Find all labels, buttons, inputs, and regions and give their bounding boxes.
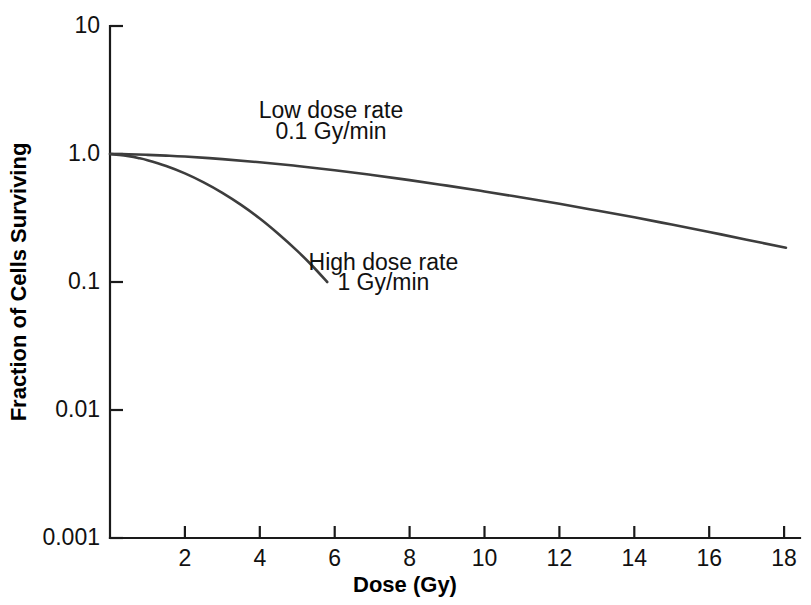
x-axis-ticks [185,526,784,538]
x-tick-label: 10 [472,545,498,571]
low-dose-rate-annotation-line2: 0.1 Gy/min [275,118,386,144]
x-tick-label: 4 [253,545,266,571]
y-axis-title: Fraction of Cells Surviving [6,143,31,422]
y-tick-label: 0.01 [55,396,100,422]
x-axis-title: Dose (Gy) [353,572,457,597]
x-tick-label: 18 [771,545,797,571]
x-tick-label: 8 [403,545,416,571]
y-tick-label: 10 [74,12,100,38]
low-dose-rate-curve [110,154,786,248]
survival-curve-chart: 101.00.10.010.001 24681012141618 Dose (G… [0,0,811,605]
chart-plot-area: 101.00.10.010.001 24681012141618 Dose (G… [0,0,811,605]
y-axis-ticks [110,26,123,538]
x-tick-label: 6 [328,545,341,571]
y-tick-label: 0.001 [42,524,100,550]
x-axis-tick-labels: 24681012141618 [179,545,797,571]
y-tick-label: 1.0 [68,140,100,166]
x-tick-label: 14 [622,545,648,571]
x-tick-label: 12 [547,545,573,571]
y-tick-label: 0.1 [68,268,100,294]
x-tick-label: 2 [179,545,192,571]
y-axis-tick-labels: 101.00.10.010.001 [42,12,100,550]
x-tick-label: 16 [696,545,722,571]
high-dose-rate-curve [110,154,327,282]
high-dose-rate-annotation-line2: 1 Gy/min [337,269,429,295]
